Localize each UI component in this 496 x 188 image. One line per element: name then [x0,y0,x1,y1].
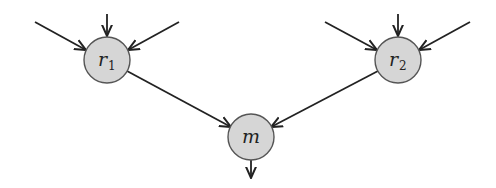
edge-r1-to-m [127,71,231,127]
node-r2-subscript: 2 [399,59,407,73]
node-m: m [228,114,274,160]
edge-input-r2-left [325,22,377,50]
node-r1: r 1 [84,37,130,83]
diagram-canvas: r 1 r 2 m [0,0,496,188]
edge-input-r1-right [128,22,179,50]
diagram-svg: r 1 r 2 m [0,0,496,188]
node-r2: r 2 [375,37,421,83]
node-r1-subscript: 1 [108,59,116,73]
edge-input-r1-left [35,22,86,50]
edge-input-r2-right [419,22,470,50]
node-m-label: m [242,125,260,147]
edge-r2-to-m [271,71,378,127]
